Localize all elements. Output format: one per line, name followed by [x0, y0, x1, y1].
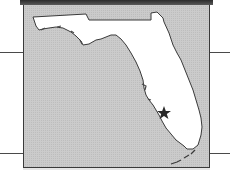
frame-shadow: [23, 168, 210, 170]
right-rule-bottom: [210, 153, 230, 154]
left-rule-top: [0, 52, 24, 53]
locator-map-frame: [23, 0, 210, 168]
florida-map: [24, 0, 210, 168]
left-rule-bottom: [0, 153, 24, 154]
right-rule-top: [210, 52, 230, 53]
top-band: [20, 0, 213, 5]
